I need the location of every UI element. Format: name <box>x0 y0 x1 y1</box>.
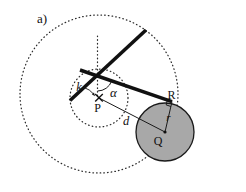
thick-rod-tangent <box>80 70 172 102</box>
distance-d-label: d <box>123 114 130 128</box>
k-leader-arrow <box>84 88 95 97</box>
physics-diagram-panel-a: a) k α P d R r Q <box>0 0 246 192</box>
disk-radius-label: r <box>166 111 171 123</box>
disk-center-label: Q <box>154 134 163 148</box>
disk-center-dot <box>163 130 166 133</box>
angle-alpha-label: α <box>110 85 118 100</box>
diagram-canvas: a) k α P d R r Q <box>0 0 246 192</box>
pivot-point-label: P <box>94 101 101 115</box>
panel-label: a) <box>37 11 47 26</box>
inner-radius-label: k <box>76 80 82 94</box>
contact-point-label: R <box>167 88 175 102</box>
